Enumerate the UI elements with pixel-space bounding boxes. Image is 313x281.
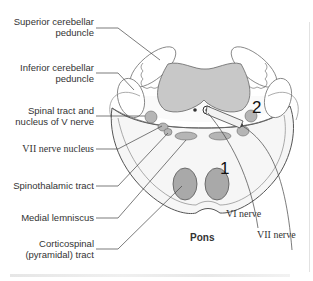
blurred-caption bbox=[10, 274, 290, 277]
medial-lemniscus-left bbox=[175, 132, 197, 140]
label-vii-nerve-nucleus: VII nerve nucleus bbox=[0, 143, 94, 154]
medial-lemniscus-right bbox=[209, 132, 231, 140]
label-line: peduncle bbox=[0, 27, 94, 38]
label-vii-nerve: VII nerve bbox=[257, 229, 296, 240]
label-corticospinal-tract: Corticospinal (pyramidal) tract bbox=[0, 238, 94, 260]
label-spinal-tract-nucleus-v: Spinal tract and nucleus of V nerve bbox=[0, 105, 94, 127]
label-line: Spinothalamic tract bbox=[0, 180, 94, 191]
vii-nucleus-left-b bbox=[164, 129, 172, 136]
corticospinal-tract-left bbox=[173, 168, 197, 200]
label-inferior-cerebellar-peduncle: Inferior cerebellar peduncle bbox=[0, 62, 94, 84]
label-line: Superior cerebellar bbox=[0, 16, 94, 27]
pons-body-outline bbox=[111, 106, 293, 214]
label-medial-lemniscus: Medial lemniscus bbox=[0, 212, 94, 223]
label-line: Medial lemniscus bbox=[0, 212, 94, 223]
diagram-title-pons: Pons bbox=[190, 232, 214, 243]
label-vi-nerve: VI nerve bbox=[226, 208, 261, 219]
label-line: (pyramidal) tract bbox=[0, 249, 94, 260]
label-line: Inferior cerebellar bbox=[0, 62, 94, 73]
label-line: Corticospinal bbox=[0, 238, 94, 249]
spinal-v-nucleus-left bbox=[145, 111, 157, 123]
marker-2: 2 bbox=[252, 99, 261, 116]
label-spinothalamic-tract: Spinothalamic tract bbox=[0, 180, 94, 191]
label-superior-cerebellar-peduncle: Superior cerebellar peduncle bbox=[0, 16, 94, 38]
right-edge-rule bbox=[309, 22, 310, 272]
label-line: nucleus of V nerve bbox=[0, 116, 94, 127]
label-line: VII nerve nucleus bbox=[0, 143, 94, 154]
marker-1: 1 bbox=[220, 160, 229, 177]
label-line: Spinal tract and bbox=[0, 105, 94, 116]
label-line: peduncle bbox=[0, 73, 94, 84]
